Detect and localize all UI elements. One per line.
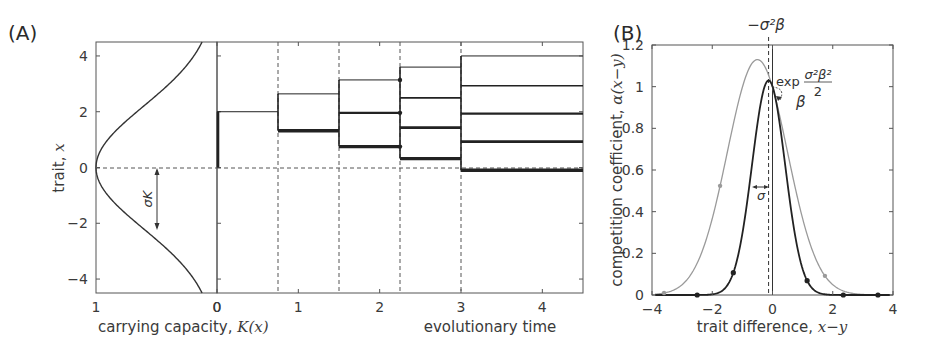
y-axis-label: trait, x xyxy=(50,143,68,193)
x-tick-label: −2 xyxy=(702,301,723,317)
curve-marker xyxy=(731,270,736,275)
x-tick-label: 0 xyxy=(768,301,777,317)
exp-denominator: 2 xyxy=(814,84,822,99)
y-tick-label: −2 xyxy=(67,215,88,231)
branch-point-marker xyxy=(398,144,402,148)
shift-label: −σ²β xyxy=(747,16,785,34)
y-tick-label: 2 xyxy=(79,104,88,120)
sigma-k-annotation: σK xyxy=(140,168,160,230)
curve-marker xyxy=(823,274,827,278)
sigma-label: σ xyxy=(757,188,766,203)
trait-lineages xyxy=(217,56,583,170)
y-axis-label: competition coefficient, α(x−y) xyxy=(608,53,626,287)
x-tick-label: 3 xyxy=(457,299,466,315)
panel-a-label: (A) xyxy=(8,21,37,45)
x-tick-label: 1 xyxy=(294,299,303,315)
curve-markers xyxy=(662,184,881,298)
plot-frame xyxy=(96,42,217,293)
arrow-head-down-icon xyxy=(155,223,160,230)
y-axis-label-math: α(x−y) xyxy=(608,53,626,104)
y-tick-label: 1 xyxy=(635,79,644,95)
y-axis-label-text: trait, xyxy=(50,152,68,193)
x-tick-label: 4 xyxy=(889,301,898,317)
y-tick-label: 4 xyxy=(79,48,88,64)
curve-marker xyxy=(841,292,846,297)
y-axis-label-text: competition coefficient, xyxy=(608,105,626,287)
x-axis-label-math: x−y xyxy=(818,318,848,336)
x-tick-label: 2 xyxy=(375,299,384,315)
y-tick-label: −4 xyxy=(67,271,88,287)
x-axis-label-text: carrying capacity, xyxy=(98,318,237,336)
curve-marker xyxy=(805,278,810,283)
x-tick-label: 2 xyxy=(828,301,837,317)
x-axis-label-math: K(x) xyxy=(236,318,269,336)
x-tick-1: 1 xyxy=(92,299,101,315)
curve-marker xyxy=(718,184,722,188)
branch-point-marker xyxy=(398,78,402,82)
x-axis-label: carrying capacity, K(x) xyxy=(98,318,269,336)
x-tick-label: 4 xyxy=(538,299,547,315)
panel-b-plot: −4−2024 00.20.40.60.811.2 −σ²β exp σ²β² … xyxy=(608,16,898,336)
curve-marker xyxy=(662,291,666,295)
y-tick-label: 0 xyxy=(79,160,88,176)
right-y-ticks xyxy=(579,56,583,279)
x-axis-label: evolutionary time xyxy=(424,318,557,336)
x-ticks: 01234 xyxy=(213,42,547,315)
arrow-head-up-icon xyxy=(155,168,160,175)
y-tick-label: 1.2 xyxy=(622,37,644,53)
x-axis-label: trait difference, x−y xyxy=(697,318,848,336)
figure: (A) (B) σK 420−2−4 1 0 carrying capacity… xyxy=(0,0,940,360)
panel-a-main-plot: 01234 evolutionary time xyxy=(213,42,583,336)
panel-a-left-plot: σK 420−2−4 1 0 carrying capacity, K(x) t… xyxy=(50,42,269,336)
branch-point-marker xyxy=(398,111,402,115)
y-ticks: 00.20.40.60.811.2 xyxy=(622,37,893,303)
y-tick-label: 0 xyxy=(635,287,644,303)
curve-marker xyxy=(875,292,880,297)
exp-numerator: σ²β² xyxy=(805,67,832,82)
curve-marker xyxy=(695,292,700,297)
x-ticks: −4−2024 xyxy=(642,45,898,317)
x-tick-label: −4 xyxy=(642,301,663,317)
sigma-k-label: σK xyxy=(140,189,155,207)
exp-word: exp xyxy=(776,74,800,89)
y-axis-label-math: x xyxy=(50,143,68,152)
x-tick-label: 0 xyxy=(213,299,222,315)
x-axis-label-text: trait difference, xyxy=(697,318,818,336)
beta-label: β xyxy=(795,93,806,111)
